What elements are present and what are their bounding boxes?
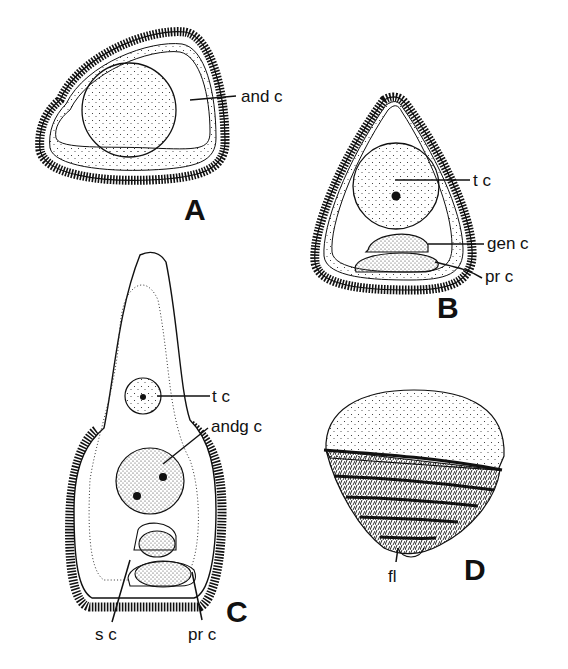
- panel-a: and c A: [40, 32, 283, 226]
- label-fl: fl: [388, 567, 397, 586]
- prothallial-cell: [135, 561, 191, 587]
- label-t-c: t c: [212, 387, 230, 406]
- panel-letter-a: A: [184, 193, 206, 226]
- antheridial-cell: [116, 448, 184, 514]
- panel-b: t c gen c pr c B: [315, 97, 529, 324]
- panel-d: fl D: [324, 390, 504, 586]
- stalk-cell: [139, 531, 175, 557]
- panel-c: t c andg c s c pr c C: [70, 252, 263, 644]
- panel-letter-b: B: [437, 291, 459, 324]
- panel-letter-d: D: [464, 553, 486, 586]
- label-t-c: t c: [473, 171, 491, 190]
- tube-cell-nucleus: [353, 143, 439, 229]
- label-gen-c: gen c: [487, 234, 529, 253]
- label-andg-c: andg c: [211, 417, 263, 436]
- panel-letter-c: C: [226, 595, 248, 628]
- nucleus: [82, 63, 176, 157]
- label-pr-c: pr c: [188, 625, 217, 644]
- label-and-c: and c: [241, 87, 283, 106]
- label-s-c: s c: [95, 625, 117, 644]
- label-pr-c: pr c: [485, 267, 514, 286]
- pollen-diagram: and c A t c gen c pr c B t c: [0, 0, 568, 669]
